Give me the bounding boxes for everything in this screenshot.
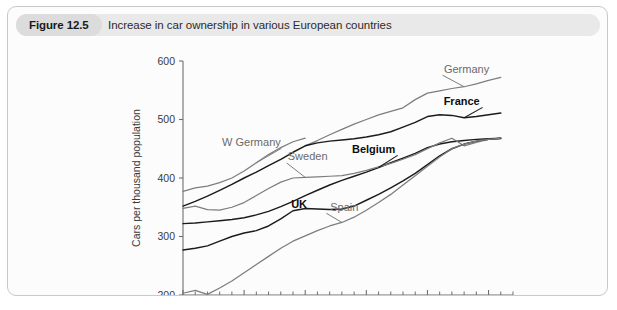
y-axis-title: Cars per thousand population [130,109,142,247]
series-leader-line [287,163,306,177]
series-line-spain [183,138,501,294]
figure-caption-text: Increase in car ownership in various Eur… [108,14,392,36]
series-label-belgium: Belgium [352,143,396,155]
y-axis-title-group: Cars per thousand population [130,109,142,247]
chart-canvas: Cars per thousand population 20030040050… [8,37,609,295]
x-axis-ticks-group: 198019851990199520002005 [171,290,513,295]
series-label-w-germany: W Germany [222,136,281,148]
y-tick-label: 200 [157,289,175,295]
series-leader-line [326,213,342,222]
series-label-uk: UK [291,198,307,210]
series-line-france [183,113,501,206]
y-tick-label: 400 [157,172,175,184]
y-axis-ticks-group: 200300400500600 [157,55,183,295]
series-leader-line [443,75,465,87]
y-tick-label: 500 [157,113,175,125]
series-line-germany [305,77,501,145]
figure-panel: Figure 12.5 Increase in car ownership in… [7,6,608,296]
y-tick-label: 300 [157,230,175,242]
series-line-uk [183,138,501,250]
figure-caption-bar: Figure 12.5 Increase in car ownership in… [16,14,600,36]
figure-number-badge: Figure 12.5 [16,14,102,36]
series-label-sweden: Sweden [288,150,328,162]
y-tick-label: 600 [157,55,175,67]
line-chart: Cars per thousand population 20030040050… [8,37,609,295]
series-label-spain: Spain [330,201,358,213]
series-lines-group [183,77,501,294]
series-label-france: France [444,95,480,107]
series-label-germany: Germany [444,63,490,75]
